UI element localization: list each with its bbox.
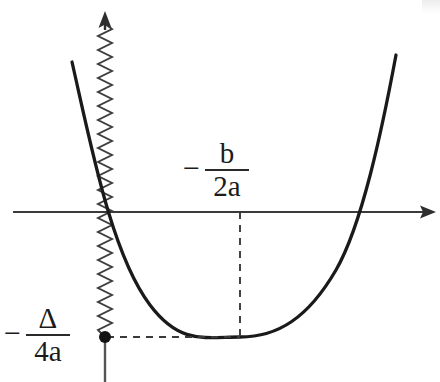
vertex-y-marker-dot: [99, 331, 111, 343]
x-axis: [13, 206, 436, 219]
parabola-figure: − b 2a − Δ 4a: [0, 0, 440, 382]
vertex-x-label: − b 2a: [183, 139, 249, 201]
vertex-x-denominator: 2a: [206, 171, 247, 201]
vertex-x-minus-sign: −: [183, 153, 205, 183]
vertex-y-denominator: 4a: [27, 336, 68, 366]
vertex-y-numerator: Δ: [32, 304, 65, 334]
vertex-y-minus-sign: −: [4, 318, 26, 348]
vertex-x-fraction: b 2a: [205, 139, 249, 201]
vertex-x-numerator: b: [213, 139, 242, 169]
vertex-y-label: − Δ 4a: [4, 304, 70, 366]
vertex-y-fraction: Δ 4a: [26, 304, 70, 366]
scan-corner-artifact: [422, 0, 440, 14]
